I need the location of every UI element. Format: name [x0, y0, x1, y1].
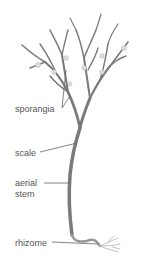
- label-aerial-stem-line1: aerial: [15, 178, 37, 188]
- label-rhizome: rhizome: [15, 238, 47, 248]
- label-sporangia: sporangia: [15, 104, 55, 114]
- branches: [22, 14, 128, 246]
- label-scale: scale: [15, 148, 36, 158]
- plant-illustration: [0, 0, 149, 257]
- label-aerial-stem-line2: stem: [15, 189, 35, 199]
- rhizome-roots: [100, 236, 120, 252]
